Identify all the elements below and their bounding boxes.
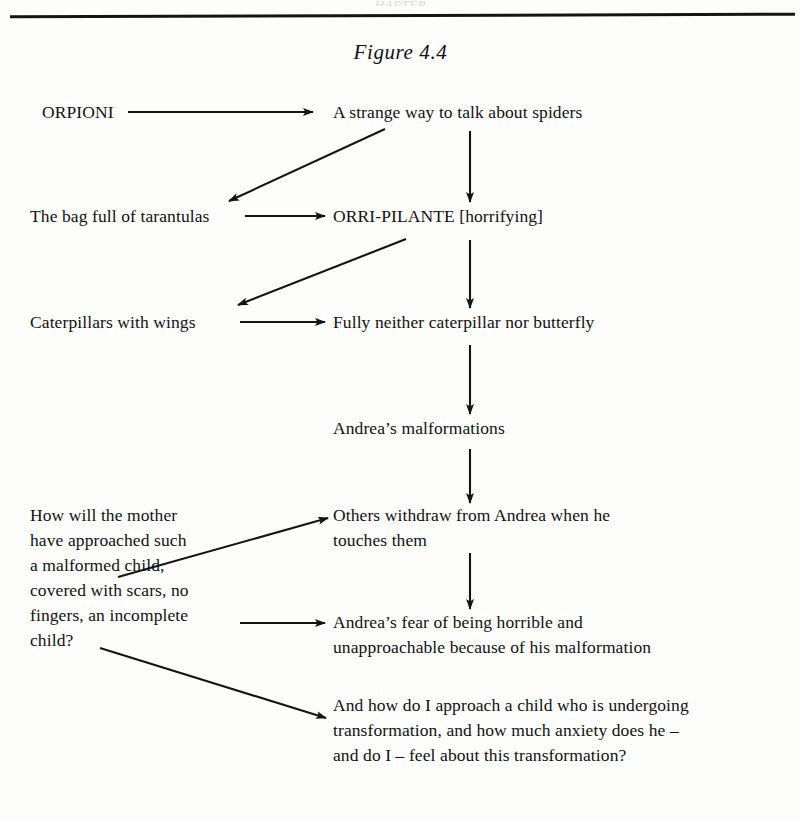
arrow-orri-to-caterpillars [238,239,406,305]
node-andreas-fear: Andrea’s fear of being horrible and unap… [333,610,651,660]
node-orpioni: ORPIONI [42,100,114,125]
node-orri-pilante: ORRI-PILANTE [horrifying] [333,204,543,229]
header-rule [10,13,795,18]
arrow-child-to-approach [100,648,326,718]
node-others-withdraw-from-andrea: Others withdraw from Andrea when he touc… [333,503,610,553]
running-head: HAPTER [0,0,801,6]
figure-title: Figure 4.4 [0,40,801,65]
figure-page: HAPTER Figure 4.4 ORPIONI A strange way … [0,0,801,821]
arrow-strange-way-to-bag-tarantulas [229,129,385,201]
node-how-do-i-approach: And how do I approach a child who is und… [333,693,689,768]
node-bag-full-of-tarantulas: The bag full of tarantulas [30,204,209,229]
node-mother-question: How will the mother have approached such… [30,503,230,653]
node-strange-way-to-talk-about-spiders: A strange way to talk about spiders [333,100,582,125]
node-andreas-malformations: Andrea’s malformations [333,416,505,441]
node-caterpillars-with-wings: Caterpillars with wings [30,310,196,335]
node-fully-neither-caterpillar-nor-butterfly: Fully neither caterpillar nor butterfly [333,310,594,335]
